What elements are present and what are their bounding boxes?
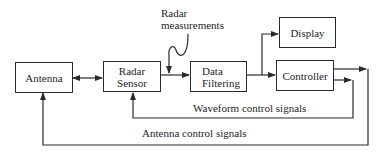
radar-measurements-label-line1: Radar xyxy=(161,7,187,19)
controller-block: Controller xyxy=(276,60,334,91)
data-filtering-block: Data Filtering xyxy=(190,61,247,92)
radar-system-block-diagram: Antenna Radar Sensor Data Filtering Disp… xyxy=(0,0,381,153)
radar-measurements-label-line2: measurements xyxy=(161,19,224,31)
radar-sensor-block: Radar Sensor xyxy=(103,61,161,92)
radar-sensor-label-line2: Sensor xyxy=(117,77,147,89)
controller-label: Controller xyxy=(282,70,327,82)
waveform-control-signals-label: Waveform control signals xyxy=(193,102,306,114)
antenna-label: Antenna xyxy=(25,72,62,84)
data-filtering-label-line2: Filtering xyxy=(202,77,240,89)
display-block: Display xyxy=(279,17,336,48)
data-filtering-label-line1: Data xyxy=(202,65,223,77)
antenna-control-signals-label: Antenna control signals xyxy=(142,127,246,139)
display-label: Display xyxy=(290,27,324,39)
radar-sensor-label-line1: Radar xyxy=(119,65,145,77)
antenna-block: Antenna xyxy=(15,62,73,93)
